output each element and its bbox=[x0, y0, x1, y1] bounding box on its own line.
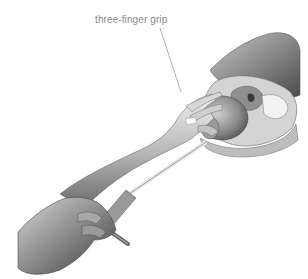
medical-illustration: three-finger grip bbox=[0, 0, 308, 279]
operator-hand-lower bbox=[18, 197, 116, 274]
annotation-label: three-finger grip bbox=[95, 14, 167, 25]
annotation-leader-line bbox=[160, 28, 181, 92]
illustration-canvas bbox=[0, 0, 308, 279]
